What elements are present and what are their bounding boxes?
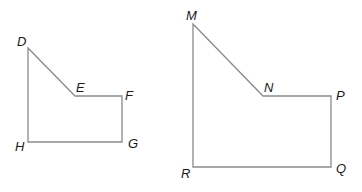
similar-polygons-diagram: D E F G H M N P Q R (0, 0, 362, 192)
vertex-label-Q: Q (336, 161, 346, 176)
vertex-label-H: H (15, 139, 25, 154)
large-polygon: M N P Q R (181, 8, 346, 181)
vertex-label-D: D (17, 34, 26, 49)
polygon-MNPQR (193, 24, 331, 167)
vertex-label-R: R (181, 166, 190, 181)
vertex-label-P: P (336, 88, 345, 103)
small-polygon: D E F G H (15, 34, 138, 154)
vertex-label-N: N (264, 80, 274, 95)
vertex-label-M: M (186, 8, 197, 23)
vertex-label-F: F (125, 88, 134, 103)
vertex-label-E: E (76, 80, 85, 95)
polygon-DEFGH (28, 48, 122, 142)
vertex-label-G: G (128, 136, 138, 151)
